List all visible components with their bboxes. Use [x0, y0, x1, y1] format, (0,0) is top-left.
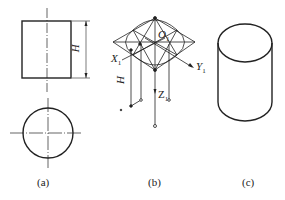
origin-o1-label: O1: [158, 28, 169, 43]
axis-y1-label: Y1: [196, 60, 206, 75]
panel-c-cylinder: [218, 24, 272, 121]
panel-b-isometric-construction: [113, 17, 195, 128]
axis-z1-label: Z1: [158, 88, 168, 103]
panel-a-top-view: [10, 98, 82, 168]
axis-x1-label: X1: [111, 52, 121, 67]
caption-a: (a): [37, 176, 49, 188]
height-label-a: H: [70, 44, 82, 52]
caption-b: (b): [148, 176, 161, 188]
caption-c: (c): [242, 176, 254, 188]
diagram-canvas: [0, 0, 285, 200]
height-label-b: H: [114, 76, 126, 84]
